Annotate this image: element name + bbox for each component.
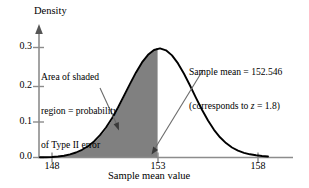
shaded-region-note-line-2: region = probability bbox=[41, 105, 118, 116]
sample-mean-note-line-2-close: = 1.8) bbox=[255, 100, 280, 111]
y-axis-title: Density bbox=[34, 5, 67, 17]
y-tick-label-0.0: 0.0 bbox=[6, 150, 32, 162]
x-tick-label-158: 158 bbox=[241, 160, 275, 172]
y-tick-label-0.3: 0.3 bbox=[6, 40, 32, 52]
sample-mean-note-line-2-open: (corresponds to bbox=[189, 100, 251, 111]
sample-mean-note-line-1: Sample mean = 152.546 bbox=[189, 66, 282, 77]
shaded-region-note-line-1: Area of shaded bbox=[41, 71, 118, 82]
normal-curve-figure: Density Sample mean value 0.0 0.1 0.2 0.… bbox=[0, 0, 309, 188]
y-axis-arrow-icon bbox=[35, 24, 43, 34]
y-tick-label-0.1: 0.1 bbox=[6, 115, 32, 127]
y-tick-label-0.2: 0.2 bbox=[6, 79, 32, 91]
shaded-region-note-line-3: of Type II error bbox=[41, 139, 118, 150]
shaded-region-note: Area of shaded region = probability of T… bbox=[41, 48, 118, 172]
x-tick-label-153: 153 bbox=[141, 160, 175, 172]
x-axis-title: Sample mean value bbox=[108, 170, 190, 182]
sample-mean-note-line-2: (corresponds to z = 1.8) bbox=[189, 100, 282, 111]
sample-mean-note: Sample mean = 152.546 (corresponds to z … bbox=[189, 43, 282, 134]
